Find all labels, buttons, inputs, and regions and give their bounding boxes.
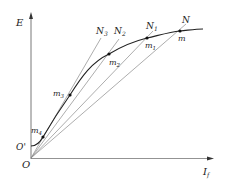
point-m1	[145, 36, 148, 39]
ray-N1	[31, 31, 153, 158]
point-m	[178, 29, 181, 32]
offset-origin-label: O'	[16, 142, 26, 152]
point-m3	[68, 93, 71, 96]
label-N: N	[181, 15, 191, 25]
label-m1: m1	[145, 41, 156, 51]
magnetization-diagram: E If O O' m4 m3 m2 m1 m N3 N2 N1 N	[0, 0, 227, 187]
label-m3: m3	[53, 89, 65, 99]
x-axis-arrow-icon	[207, 157, 214, 161]
point-m2	[107, 52, 110, 55]
y-axis-arrow-icon	[29, 12, 33, 19]
label-m2: m2	[109, 58, 121, 68]
label-N1: N1	[145, 21, 158, 32]
label-N2: N2	[113, 26, 126, 37]
y-axis-label: E	[15, 17, 24, 28]
x-axis-label: If	[202, 166, 211, 179]
magnetization-curve	[31, 29, 203, 146]
point-m4	[41, 135, 44, 138]
origin-label: O	[22, 159, 30, 170]
label-m4: m4	[31, 126, 43, 136]
label-N3: N3	[95, 26, 108, 37]
label-m: m	[178, 34, 186, 43]
ray-N2	[31, 39, 119, 158]
